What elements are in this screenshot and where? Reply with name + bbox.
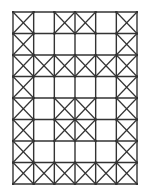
grid-node [32,54,35,57]
grid-node [74,54,77,57]
grid-node [94,54,97,57]
grid-node [115,140,118,143]
grid-node [74,32,77,35]
grid-node [53,97,56,100]
grid-node [32,118,35,121]
grid-node [94,75,97,78]
grid-node [94,32,97,35]
grid-node [115,75,118,78]
grid-node [74,140,77,143]
grid-node [53,75,56,78]
grid-node [115,118,118,121]
grid-node [53,32,56,35]
grid-node [74,161,77,164]
grid-node [32,97,35,100]
grid-node [32,161,35,164]
grid-node [74,118,77,121]
grid-node [74,75,77,78]
grid-node [94,140,97,143]
grid-node [32,140,35,143]
grid-node [32,32,35,35]
grid-node [53,118,56,121]
grid-node [53,140,56,143]
grid-node [32,75,35,78]
grid-node [94,118,97,121]
grid-node [53,54,56,57]
crossed-grid-diagram [12,11,138,185]
grid-node [53,161,56,164]
grid-node [115,161,118,164]
grid-node [94,97,97,100]
grid-node [115,54,118,57]
grid-node [74,97,77,100]
grid-node [115,32,118,35]
grid-node [94,161,97,164]
grid-node [115,97,118,100]
